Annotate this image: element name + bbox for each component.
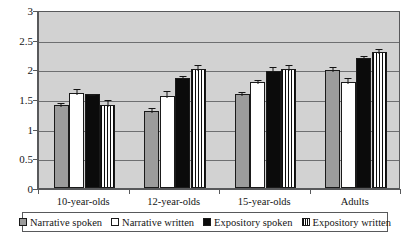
error-bar-narrative-written: [160, 91, 175, 98]
legend-label: Expository spoken: [214, 217, 292, 228]
error-bar-cap: [195, 65, 202, 66]
plot-area: [38, 11, 400, 189]
legend-label: Narrative spoken: [30, 217, 102, 228]
error-bar-narrative-spoken: [325, 67, 340, 72]
error-bar-cap: [239, 92, 246, 93]
y-tick-label: 2.5: [0, 35, 33, 46]
error-bar-stem: [107, 100, 108, 107]
error-bar-narrative-written: [250, 80, 265, 84]
error-bar-cap: [58, 103, 65, 104]
error-bar-narrative-written: [69, 89, 84, 95]
error-bar-cap: [329, 67, 336, 68]
error-bar-cap: [89, 95, 96, 96]
x-category-label: Adults: [341, 196, 369, 208]
bar-expository-written: [191, 69, 206, 188]
legend-label: Expository written: [313, 217, 391, 228]
bar-expository-spoken: [85, 94, 100, 188]
error-bar-cap: [179, 76, 186, 77]
bar-expository-written: [281, 69, 296, 188]
x-category-label: 12-year-olds: [147, 196, 200, 208]
x-tick-mark: [129, 189, 130, 194]
error-bar-stem: [167, 91, 168, 98]
error-bar-expository-written: [191, 65, 206, 71]
bar-chart: 00.511.522.53 10-year-olds12-year-olds15…: [0, 0, 410, 240]
bar-expository-written: [100, 105, 115, 188]
y-tick-label: 0: [0, 184, 33, 195]
bar-narrative-spoken: [325, 70, 340, 188]
error-bar-cap: [270, 67, 277, 68]
x-tick-mark: [219, 189, 220, 194]
error-bar-cap: [360, 56, 367, 57]
error-bar-expository-spoken: [266, 67, 281, 72]
error-bar-expository-spoken: [356, 56, 371, 60]
x-tick-mark: [400, 189, 401, 194]
bar-narrative-spoken: [235, 94, 250, 188]
y-tick-mark: [33, 11, 38, 12]
y-tick-mark: [33, 130, 38, 131]
error-bar-cap: [376, 49, 383, 50]
legend-swatch-icon: [203, 218, 211, 226]
bar-narrative-written: [160, 96, 175, 188]
y-tick-label: 1: [0, 124, 33, 135]
error-bar-cap: [148, 108, 155, 109]
y-axis-line: [37, 11, 38, 190]
y-axis-labels: 00.511.522.53: [0, 0, 33, 240]
bar-narrative-spoken: [144, 111, 159, 188]
error-bar-cap: [254, 80, 261, 81]
error-bar-expository-written: [372, 49, 387, 54]
error-bar-narrative-spoken: [54, 103, 69, 107]
bar-narrative-spoken: [54, 105, 69, 188]
bar-expository-written: [372, 52, 387, 188]
bar-expository-spoken: [356, 58, 371, 188]
error-bar-narrative-spoken: [144, 108, 159, 113]
error-bar-narrative-spoken: [235, 92, 250, 96]
x-tick-mark: [38, 189, 39, 194]
legend-item-narrative-spoken: Narrative spoken: [19, 217, 102, 228]
x-category-label: 15-year-olds: [238, 196, 291, 208]
error-bar-expository-spoken: [85, 95, 100, 96]
x-tick-mark: [310, 189, 311, 194]
error-bar-expository-spoken: [175, 76, 190, 80]
error-bar-expository-written: [100, 100, 115, 107]
legend-item-expository-written: Expository written: [302, 217, 391, 228]
bar-expository-spoken: [175, 78, 190, 188]
bar-narrative-written: [69, 93, 84, 188]
error-bar-narrative-written: [341, 78, 356, 84]
error-bar-cap: [104, 100, 111, 101]
error-bar-cap: [345, 78, 352, 79]
y-tick-label: 2: [0, 65, 33, 76]
y-tick-label: 1.5: [0, 95, 33, 106]
gridline: [39, 71, 399, 72]
bar-narrative-written: [341, 82, 356, 188]
legend-swatch-icon: [19, 218, 27, 226]
legend-label: Narrative written: [122, 217, 194, 228]
y-tick-mark: [33, 100, 38, 101]
bar-expository-spoken: [266, 71, 281, 188]
legend-item-narrative-written: Narrative written: [111, 217, 194, 228]
legend: Narrative spokenNarrative writtenExposit…: [22, 212, 388, 232]
gridline: [39, 42, 399, 43]
y-tick-label: 3: [0, 6, 33, 17]
error-bar-cap: [73, 89, 80, 90]
error-bar-cap: [164, 91, 171, 92]
y-tick-mark: [33, 41, 38, 42]
legend-item-expository-spoken: Expository spoken: [203, 217, 292, 228]
y-tick-mark: [33, 70, 38, 71]
error-bar-cap: [285, 65, 292, 66]
error-bar-expository-written: [281, 65, 296, 72]
y-tick-mark: [33, 159, 38, 160]
bar-narrative-written: [250, 82, 265, 188]
legend-swatch-icon: [302, 218, 310, 226]
x-category-label: 10-year-olds: [57, 196, 110, 208]
legend-swatch-icon: [111, 218, 119, 226]
y-tick-label: 0.5: [0, 154, 33, 165]
